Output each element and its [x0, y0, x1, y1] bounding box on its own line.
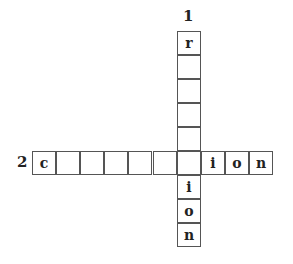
down-cell-8[interactable]: o [177, 199, 201, 223]
down-cell-9[interactable]: n [177, 223, 201, 247]
across-cell-6[interactable] [153, 151, 177, 175]
across-cell-5[interactable] [128, 151, 152, 175]
down-cell-2[interactable] [177, 55, 201, 79]
down-cell-3[interactable] [177, 79, 201, 103]
across-cell-9[interactable]: o [225, 151, 249, 175]
down-cell-1[interactable]: r [177, 31, 201, 55]
intersection-cell[interactable] [177, 151, 201, 175]
down-cell-5[interactable] [177, 127, 201, 151]
down-cell-4[interactable] [177, 103, 201, 127]
across-cell-8[interactable]: i [201, 151, 225, 175]
across-cell-2[interactable] [56, 151, 80, 175]
across-cell-10[interactable]: n [249, 151, 273, 175]
clue-number-1: 1 [183, 9, 193, 24]
across-cell-1[interactable]: c [32, 151, 56, 175]
across-cell-4[interactable] [104, 151, 128, 175]
clue-number-2: 2 [17, 155, 27, 170]
across-cell-3[interactable] [80, 151, 104, 175]
down-cell-7[interactable]: i [177, 175, 201, 199]
